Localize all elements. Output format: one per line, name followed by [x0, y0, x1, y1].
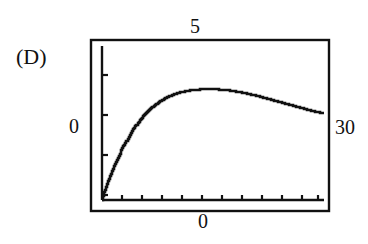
data-curve [102, 89, 324, 200]
plot-area [0, 0, 368, 244]
figure-panel-d: (D) 5 0 30 0 [0, 0, 368, 244]
outer-frame [91, 40, 329, 211]
axis-ticks [103, 75, 318, 199]
plot-frame [91, 40, 329, 211]
